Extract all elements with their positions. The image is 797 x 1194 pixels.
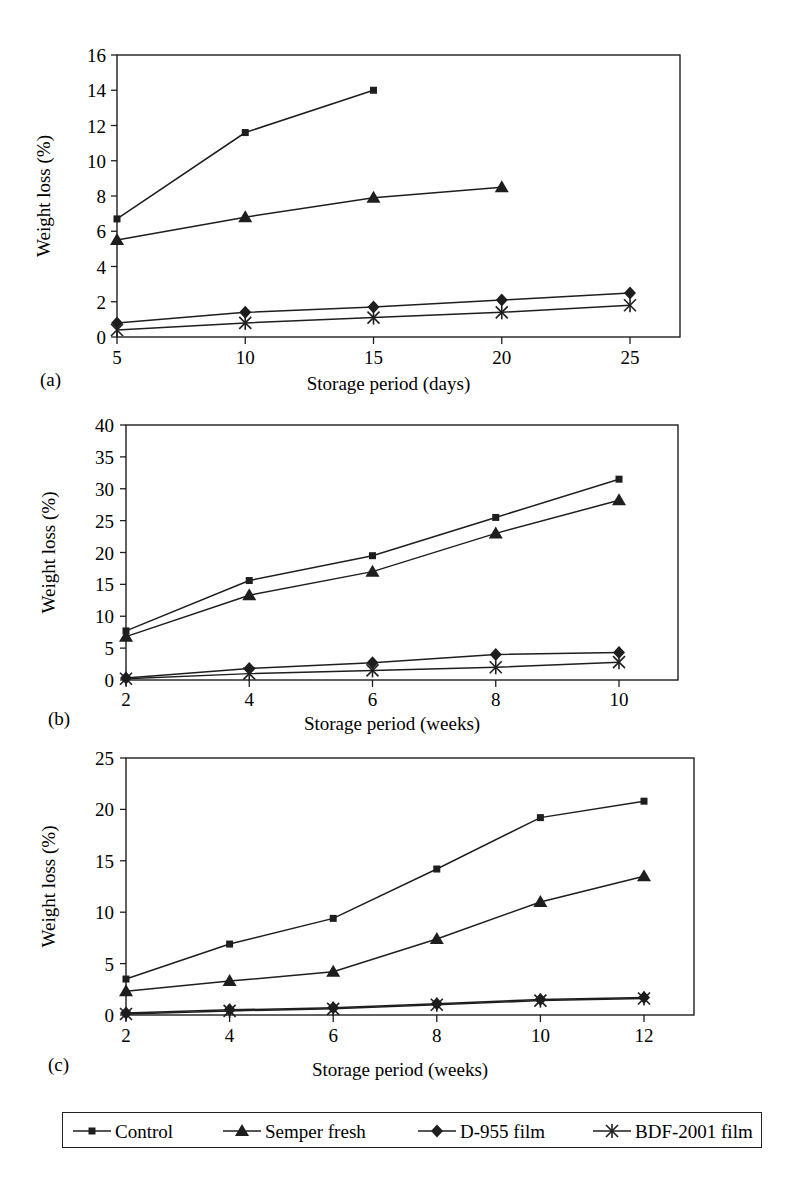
data-point-marker [246,577,253,584]
y-tick-label: 30 [95,479,114,500]
chart-panel-a: 0246810121416510152025Weight loss (%)Sto… [33,45,680,395]
y-tick-label: 15 [95,574,114,595]
y-axis-label: Weight loss (%) [33,135,55,257]
chart-panel-b: 0510152025303540246810Weight loss (%)Sto… [38,415,678,735]
y-tick-label: 16 [87,45,106,66]
legend-marker [235,1124,249,1136]
data-point-marker [492,514,499,521]
y-tick-label: 35 [95,447,114,468]
legend-label: Control [115,1121,173,1142]
y-tick-label: 0 [105,1005,115,1026]
x-tick-label: 10 [610,689,629,710]
legend-marker [89,1128,96,1135]
y-tick-label: 5 [105,954,115,975]
x-tick-label: 2 [121,1025,131,1046]
data-point-marker [330,915,337,922]
x-tick-label: 15 [364,347,383,368]
y-tick-label: 14 [87,80,107,101]
y-axis-label: Weight loss (%) [38,492,60,614]
x-axis-label: Storage period (weeks) [304,713,480,735]
y-tick-label: 12 [87,116,106,137]
legend-label: D-955 film [460,1121,545,1142]
x-tick-label: 10 [236,347,255,368]
x-tick-label: 25 [621,347,640,368]
series-semper-fresh [119,493,626,641]
chart-panel-c: 051015202524681012Weight loss (%)Storage… [38,748,694,1081]
legend-label: Semper fresh [265,1121,366,1142]
y-tick-label: 0 [97,327,107,348]
y-tick-label: 0 [105,670,115,691]
legend-marker [431,1125,443,1138]
y-tick-label: 40 [95,415,114,436]
panel-label: (b) [48,708,70,730]
panel-label: (a) [40,369,61,391]
series-semper-fresh [119,869,651,996]
x-tick-label: 2 [121,689,131,710]
data-point-marker [637,869,651,881]
data-point-marker [226,941,233,948]
y-tick-label: 10 [95,606,114,627]
data-point-marker [624,286,636,299]
x-tick-label: 20 [492,347,511,368]
x-tick-label: 4 [225,1025,235,1046]
x-tick-label: 8 [491,689,501,710]
legend-label: BDF-2001 film [635,1121,753,1142]
y-tick-label: 25 [95,511,114,532]
y-tick-label: 4 [97,257,107,278]
legend-canvas: ControlSemper freshD-955 filmBDF-2001 fi… [63,1113,763,1149]
y-tick-label: 5 [105,638,115,659]
x-axis-label: Storage period (days) [307,373,471,395]
y-tick-label: 20 [95,543,114,564]
y-tick-label: 10 [95,902,114,923]
legend-item-control: Control [73,1121,173,1142]
x-tick-label: 6 [328,1025,338,1046]
plot-area [126,758,694,1015]
x-tick-label: 10 [531,1025,550,1046]
data-point-marker [123,976,130,983]
x-tick-label: 5 [112,347,122,368]
legend-item-bdf-2001-film: BDF-2001 film [593,1121,753,1142]
series-bdf-2001-film [120,992,650,1021]
data-point-marker [616,476,623,483]
x-tick-label: 4 [245,689,255,710]
y-tick-label: 25 [95,748,114,769]
x-tick-label: 12 [635,1025,654,1046]
data-point-marker [612,493,626,505]
data-point-marker [369,552,376,559]
data-point-marker [641,798,648,805]
data-point-marker [496,293,508,306]
data-point-marker [433,866,440,873]
x-tick-label: 8 [432,1025,442,1046]
series-semper-fresh [110,180,509,245]
data-point-marker [370,87,377,94]
y-axis-label: Weight loss (%) [38,826,60,948]
series-control [114,87,378,223]
legend: ControlSemper freshD-955 filmBDF-2001 fi… [62,1112,762,1148]
legend-item-d-955-film: D-955 film [418,1121,545,1142]
x-axis-label: Storage period (weeks) [312,1059,488,1081]
data-point-marker [490,648,502,661]
y-tick-label: 10 [87,151,106,172]
series-control [123,476,623,635]
x-tick-label: 6 [368,689,378,710]
y-tick-label: 15 [95,851,114,872]
data-point-marker [114,215,121,222]
legend-item-semper-fresh: Semper fresh [223,1121,366,1142]
data-point-marker [495,180,509,192]
charts-canvas: 0246810121416510152025Weight loss (%)Sto… [0,0,797,1194]
y-tick-label: 6 [97,221,107,242]
panel-label: (c) [48,1054,69,1076]
y-tick-label: 20 [95,799,114,820]
data-point-marker [537,814,544,821]
plot-area [126,425,678,680]
y-tick-label: 8 [97,186,107,207]
y-tick-label: 2 [97,292,107,313]
data-point-marker [242,129,249,136]
